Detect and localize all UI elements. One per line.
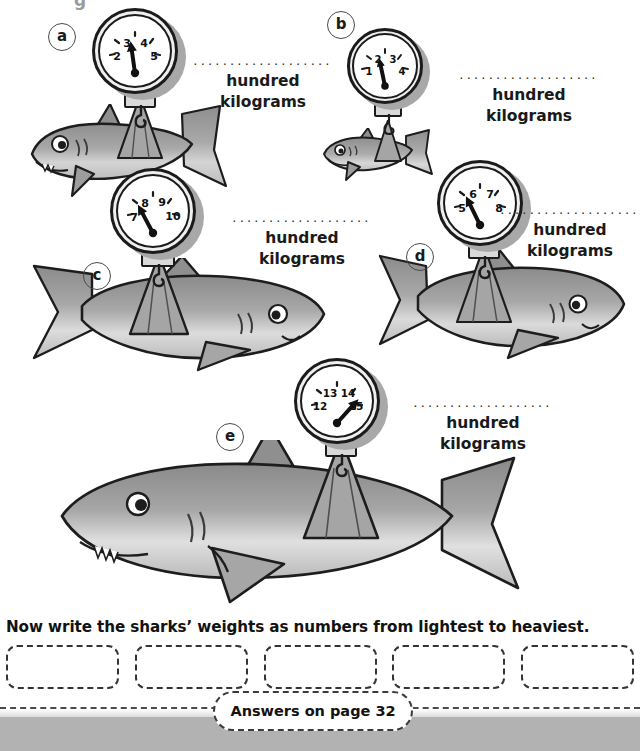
hook-e	[331, 454, 353, 480]
answer-box-5[interactable]	[521, 645, 634, 689]
label-letter-c: c	[83, 262, 111, 290]
dial-a-num-3: 5	[150, 50, 158, 63]
gauge-b: 1 2 3 4	[347, 28, 437, 112]
label-hundred-a: hundred	[183, 71, 343, 92]
dial-d-num-2: 7	[486, 188, 494, 201]
answer-label-e: ................... hundred kilograms	[398, 398, 568, 455]
label-kilograms-d: kilograms	[500, 241, 640, 262]
dial-b-num-0: 1	[366, 66, 373, 77]
dial-e-num-1: 13	[323, 387, 338, 399]
dotted-answer-line-c[interactable]: ...................	[222, 213, 382, 223]
dotted-answer-line-d[interactable]: ...................	[500, 205, 640, 215]
answer-label-a: ................... hundred kilograms	[183, 56, 343, 113]
shark-e	[22, 440, 532, 610]
answer-box-2[interactable]	[135, 645, 248, 689]
answer-label-b: ................... hundred kilograms	[444, 70, 614, 127]
answer-boxes-row	[6, 645, 634, 691]
label-hundred-c: hundred	[222, 228, 382, 249]
answer-box-1[interactable]	[6, 645, 119, 689]
dial-c-num-2: 9	[158, 196, 166, 209]
dial-d-num-0: 5	[458, 202, 466, 215]
dial-e-num-2: 14	[341, 387, 356, 399]
dotted-answer-line-e[interactable]: ...................	[398, 398, 568, 408]
label-hundred-d: hundred	[500, 220, 640, 241]
gauge-c: 7 8 9 10	[110, 168, 210, 260]
answer-label-d: ................... hundred kilograms	[500, 205, 640, 262]
gauge-a: 2 3 4 5	[92, 8, 192, 100]
hook-d	[474, 256, 496, 282]
label-kilograms-b: kilograms	[444, 106, 614, 127]
dial-b-num-3: 4	[399, 66, 406, 77]
label-hundred-e: hundred	[398, 413, 568, 434]
hook-c	[148, 264, 170, 290]
label-kilograms-e: kilograms	[398, 434, 568, 455]
answers-note: Answers on page 32	[213, 691, 413, 731]
cut-off-text-top: g	[74, 0, 86, 10]
dial-a-num-2: 4	[140, 37, 148, 50]
label-letter-b: b	[327, 11, 355, 39]
dial-d-num-1: 6	[469, 188, 477, 201]
hook-a	[130, 105, 152, 131]
dotted-answer-line-a[interactable]: ...................	[183, 56, 343, 66]
label-kilograms-c: kilograms	[222, 249, 382, 270]
label-letter-d: d	[406, 243, 434, 271]
label-letter-a: a	[48, 23, 76, 51]
hook-b	[379, 114, 399, 138]
label-hundred-b: hundred	[444, 85, 614, 106]
dial-e-num-0: 12	[313, 400, 328, 412]
gauge-e: 12 13 14 15	[294, 358, 394, 450]
worksheet-page: g	[0, 0, 640, 751]
question-text: Now write the sharks’ weights as numbers…	[6, 618, 634, 636]
label-kilograms-a: kilograms	[183, 92, 343, 113]
dial-b-num-2: 3	[390, 54, 397, 65]
dial-a-num-0: 2	[113, 50, 121, 63]
dotted-answer-line-b[interactable]: ...................	[444, 70, 614, 80]
dial-c-num-3: 10	[165, 210, 181, 223]
answer-box-3[interactable]	[264, 645, 377, 689]
answer-box-4[interactable]	[392, 645, 505, 689]
label-letter-e: e	[216, 423, 244, 451]
answer-label-c: ................... hundred kilograms	[222, 213, 382, 270]
dial-c-num-0: 7	[130, 211, 138, 224]
